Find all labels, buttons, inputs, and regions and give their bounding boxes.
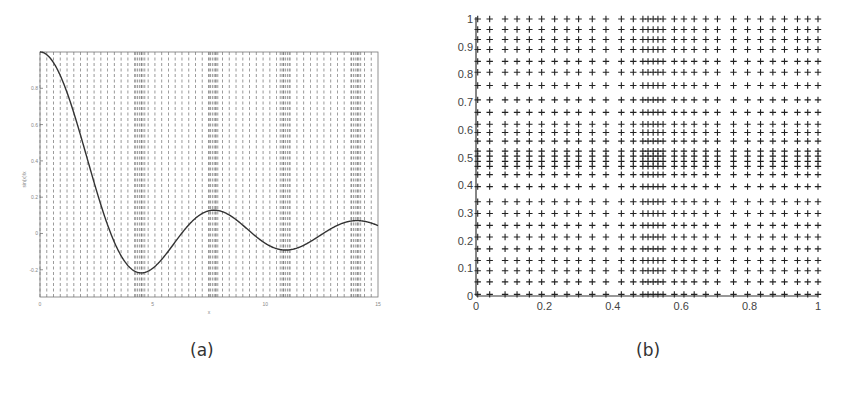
x-tick-label: 0.6 [674,300,689,312]
x-axis-label: x [208,309,211,315]
y-tick-label: 0 [35,230,38,236]
y-axis-label: sin(x)/x [21,171,27,188]
x-tick-label: 10 [263,301,269,307]
y-tick-label: 0.8 [31,85,38,91]
x-tick-label: 0 [39,301,42,307]
y-tick-label: 0.2 [31,194,38,200]
x-tick-label: 0 [473,300,479,312]
chart-a-panel: 0.80.60.40.20-0.2051015xsin(x)/x [0,0,400,330]
y-tick-label: 0.6 [458,124,473,136]
x-tick-label: 5 [151,301,154,307]
y-tick-label: 0.7 [458,96,473,108]
chart-b-panel: 00.10.20.30.40.50.60.70.80.9100.20.40.60… [440,0,843,330]
sinc-line-chart: 0.80.60.40.20-0.2051015xsin(x)/x [0,0,400,330]
y-tick-label: 1 [467,13,473,25]
sample-point-lines [40,52,371,297]
x-tick-label: 1 [815,300,821,312]
mesh-scatter-chart: 00.10.20.30.40.50.60.70.80.9100.20.40.60… [440,0,843,330]
y-tick-label: 0.4 [31,158,38,164]
y-tick-label: 0.4 [458,179,473,191]
y-tick-label: 0.5 [458,152,473,164]
y-tick-label: 0.1 [458,262,473,274]
x-tick-label: 15 [375,301,381,307]
mesh-points [475,16,822,298]
y-tick-label: 0.2 [458,235,473,247]
caption-b: (b) [636,340,660,360]
y-tick-label: 0.9 [458,41,473,53]
y-tick-label: -0.2 [29,267,38,273]
caption-a: (a) [190,340,214,360]
y-tick-label: 0.6 [31,122,38,128]
x-tick-label: 0.4 [605,300,620,312]
x-tick-label: 0.8 [742,300,757,312]
y-tick-label: 0.3 [458,207,473,219]
y-tick-label: 0.8 [458,68,473,80]
x-tick-label: 0.2 [537,300,552,312]
